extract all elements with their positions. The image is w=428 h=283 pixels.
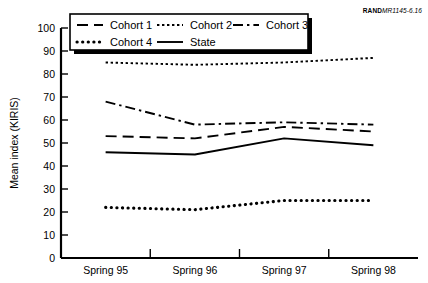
y-axis-tick-label: 80 (43, 68, 55, 80)
legend-box: Cohort 1Cohort 2Cohort 3Cohort 4State (70, 14, 312, 54)
y-axis-tick-label: 60 (43, 114, 55, 126)
y-axis-tick-label: 100 (37, 22, 55, 34)
y-axis-tick-label: 40 (43, 160, 55, 172)
x-axis-category-label: Spring 97 (262, 264, 307, 276)
legend-label: Cohort 2 (190, 19, 232, 31)
legend-label: State (190, 36, 216, 48)
rand-report-code: MR1145-6.16 (382, 7, 422, 14)
legend-label: Cohort 3 (266, 19, 308, 31)
y-axis-tick-label: 50 (43, 137, 55, 149)
rand-source-tag: RANDMR1145-6.16 (363, 7, 422, 14)
legend-label: Cohort 4 (110, 36, 152, 48)
y-axis-tick-label: 0 (49, 252, 55, 264)
series-line-state (106, 138, 374, 154)
series-layer (106, 58, 374, 210)
axes-layer: 0102030405060708090100Spring 95Spring 96… (8, 22, 418, 276)
rand-brand-label: RAND (363, 7, 382, 14)
y-axis-tick-label: 20 (43, 206, 55, 218)
x-axis-category-label: Spring 98 (351, 264, 396, 276)
y-axis-title: Mean index (KIRIS) (8, 97, 20, 189)
y-axis-tick-label: 30 (43, 183, 55, 195)
legend-label: Cohort 1 (110, 19, 152, 31)
series-line-cohort-4 (106, 201, 374, 210)
y-axis-tick-label: 90 (43, 45, 55, 57)
series-line-cohort-2 (106, 58, 374, 65)
y-axis-tick-label: 10 (43, 229, 55, 241)
series-line-cohort-1 (106, 127, 374, 138)
line-chart: 0102030405060708090100Spring 95Spring 96… (0, 0, 428, 283)
figure-container: RANDMR1145-6.16 0102030405060708090100Sp… (0, 0, 428, 283)
x-axis-category-label: Spring 96 (172, 264, 217, 276)
y-axis-tick-label: 70 (43, 91, 55, 103)
x-axis-category-label: Spring 95 (83, 264, 128, 276)
series-line-cohort-3 (106, 102, 374, 125)
